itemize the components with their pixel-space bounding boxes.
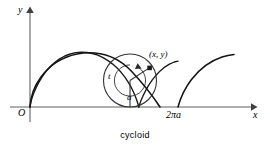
period-2pia-label: 2πa: [166, 110, 181, 120]
figure-caption: cycloid: [0, 130, 270, 140]
point-xy-label: (x, y): [149, 50, 167, 59]
angle-arc-arrowhead: [135, 63, 142, 69]
cycloid-diagram-svg: [0, 0, 270, 149]
origin-label: O: [18, 108, 25, 118]
radius-a-label: a: [127, 93, 132, 102]
cycloid-arch-2-final: [178, 55, 234, 108]
angle-t-label: t: [108, 72, 111, 81]
y-axis-arrowhead: [26, 7, 34, 14]
tracing-point-marker: [147, 66, 152, 71]
cycloid-figure: y x O t a (x, y) 2πa cycloid: [0, 0, 270, 149]
x-axis-label: x: [253, 110, 257, 120]
y-axis-label: y: [18, 5, 22, 15]
